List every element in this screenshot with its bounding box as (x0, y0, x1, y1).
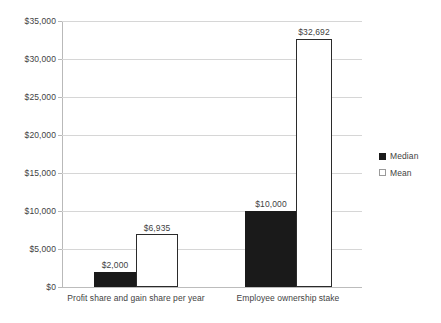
y-tick-label: $25,000 (0, 93, 56, 102)
y-tick-label: $30,000 (0, 55, 56, 64)
y-tick-label: $35,000 (0, 17, 56, 26)
gridline (62, 21, 362, 22)
bar-mean-profit-share[interactable] (136, 234, 178, 287)
y-tick-label: $10,000 (0, 207, 56, 216)
legend-item-median[interactable]: Median (379, 152, 418, 161)
bar-value-label-mean-ownership-stake: $32,692 (298, 28, 329, 37)
legend-item-mean[interactable]: Mean (379, 169, 418, 178)
x-axis-category-label-ownership-stake: Employee ownership stake (237, 293, 340, 303)
plot-area (62, 21, 362, 287)
bar-mean-ownership-stake[interactable] (296, 39, 332, 288)
legend-label-mean: Mean (390, 169, 412, 178)
legend-label-median: Median (390, 152, 418, 161)
bar-value-label-median-ownership-stake: $10,000 (255, 200, 286, 209)
bar-median-ownership-stake[interactable] (245, 211, 296, 287)
y-tick-label: $20,000 (0, 131, 56, 140)
legend-swatch-mean-icon (379, 169, 386, 176)
y-tick-label: $0 (0, 283, 56, 292)
legend-swatch-median-icon (379, 153, 386, 160)
y-axis-tick-labels: $0 $5,000 $10,000 $15,000 $20,000 $25,00… (0, 0, 56, 323)
bar-median-profit-share[interactable] (94, 272, 136, 287)
bar-value-label-median-profit-share: $2,000 (102, 261, 129, 270)
chart-legend: Median Mean (379, 152, 418, 185)
x-axis-baseline (62, 287, 362, 288)
y-tick-label: $15,000 (0, 169, 56, 178)
bar-chart: $0 $5,000 $10,000 $15,000 $20,000 $25,00… (0, 0, 441, 323)
x-axis-category-label-profit-share: Profit share and gain share per year (67, 293, 204, 303)
bar-value-label-mean-profit-share: $6,935 (144, 224, 171, 233)
y-tick-label: $5,000 (0, 245, 56, 254)
